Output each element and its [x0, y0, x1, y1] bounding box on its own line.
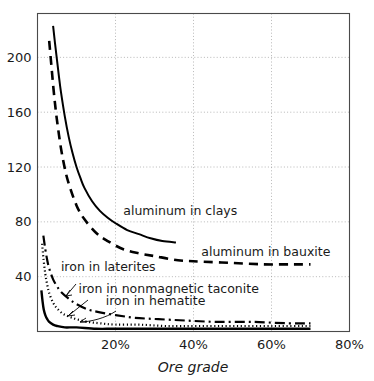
x-axis-title: Ore grade: [158, 359, 229, 375]
x-tick-label: 40%: [179, 337, 208, 352]
y-tick-label: 200: [7, 50, 32, 65]
x-tick-label: 20%: [101, 337, 130, 352]
y-tick-label: 40: [15, 269, 32, 284]
series-annotation-label: iron in laterites: [61, 259, 156, 274]
series-annotation-label: aluminum in clays: [123, 203, 237, 218]
y-tick-label: 80: [15, 214, 32, 229]
chart-container: 4080120160200 20%40%60%80% aluminum in c…: [0, 0, 374, 381]
y-tick-label: 120: [7, 160, 32, 175]
y-axis-tick-labels: 4080120160200: [7, 50, 32, 284]
x-tick-label: 80%: [335, 337, 364, 352]
y-tick-label: 160: [7, 105, 32, 120]
x-tick-label: 60%: [257, 337, 286, 352]
x-axis-tick-labels: 20%40%60%80%: [101, 337, 364, 352]
series-annotation-label: aluminum in bauxite: [201, 244, 330, 259]
series-annotation-label: iron in hematite: [106, 293, 206, 308]
series-annotations: aluminum in claysaluminum in bauxiteiron…: [61, 203, 331, 308]
ore-grade-chart: 4080120160200 20%40%60%80% aluminum in c…: [0, 0, 374, 381]
